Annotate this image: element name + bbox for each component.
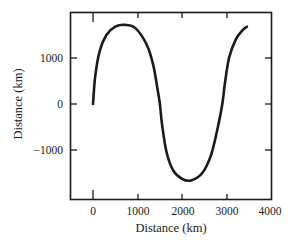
chart: 0 1000 2000 3000 4000 1000 0 −1000 Dista… bbox=[0, 0, 297, 247]
y-tick-label: 1000 bbox=[40, 52, 63, 64]
x-tick-label: 2000 bbox=[172, 205, 195, 217]
top-ticks bbox=[93, 13, 227, 23]
y-tick-label: 0 bbox=[57, 98, 63, 110]
x-tick-label: 1000 bbox=[127, 205, 150, 217]
y-axis-ticks bbox=[71, 58, 78, 150]
x-tick-label: 3000 bbox=[216, 205, 239, 217]
right-ticks bbox=[265, 58, 272, 150]
x-tick-label: 0 bbox=[90, 205, 96, 217]
x-tick-labels: 0 1000 2000 3000 4000 bbox=[90, 205, 282, 217]
y-tick-labels: 1000 0 −1000 bbox=[34, 52, 64, 156]
y-axis-label: Distance (km) bbox=[11, 68, 25, 139]
x-axis-ticks bbox=[93, 190, 227, 200]
x-axis-label: Distance (km) bbox=[135, 221, 206, 235]
plot-frame bbox=[71, 13, 272, 200]
x-tick-label: 4000 bbox=[259, 205, 282, 217]
y-tick-label: −1000 bbox=[34, 144, 64, 156]
data-curve bbox=[93, 25, 247, 181]
